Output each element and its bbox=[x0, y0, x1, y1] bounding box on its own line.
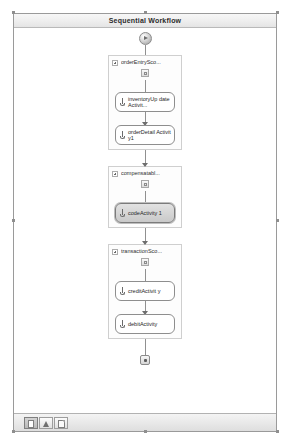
scope-header[interactable]: compensatabl... bbox=[109, 169, 181, 178]
page-title: Sequential Workflow bbox=[109, 17, 182, 24]
resize-grip-bottom-center[interactable] bbox=[144, 430, 147, 433]
scope-header[interactable]: orderEntrySco... bbox=[109, 58, 181, 67]
connector-scope3-to-end bbox=[145, 339, 146, 355]
page-icon bbox=[28, 420, 34, 428]
connector-badge-to-activity bbox=[145, 269, 146, 281]
scope-transaction[interactable]: transactionSco... creditActivit y debitA… bbox=[108, 244, 182, 339]
activity-debit[interactable]: debitActivity bbox=[115, 314, 175, 334]
resize-grip-top-center[interactable] bbox=[144, 11, 147, 14]
workflow-flow-column: orderEntrySco... inventoryUp dateActivit… bbox=[14, 32, 276, 365]
scope-body: creditActivit y debitActivity bbox=[115, 269, 175, 338]
expand-plus-icon[interactable] bbox=[112, 171, 118, 177]
workflow-canvas[interactable]: orderEntrySco... inventoryUp dateActivit… bbox=[14, 28, 276, 413]
start-node-icon[interactable] bbox=[139, 32, 152, 45]
resize-grip-left-middle[interactable] bbox=[12, 219, 15, 222]
scope-label: transactionSco... bbox=[121, 249, 162, 255]
activity-label: creditActivit y bbox=[128, 288, 172, 295]
designer-toolbar bbox=[14, 413, 276, 431]
workflow-designer-window: Sequential Workflow orderEntrySco... inv… bbox=[13, 13, 277, 432]
scope-header[interactable]: transactionSco... bbox=[109, 247, 181, 256]
scope-icon bbox=[141, 258, 149, 266]
activity-label: orderDetail Activity1 bbox=[128, 129, 172, 142]
activity-label: debitActivity bbox=[128, 321, 172, 328]
connector-credit-to-debit bbox=[145, 301, 146, 314]
connector-badge-to-activity bbox=[145, 191, 146, 203]
activity-glyph-icon bbox=[119, 287, 126, 296]
resize-grip-top-right[interactable] bbox=[276, 11, 279, 14]
activity-glyph-icon bbox=[119, 98, 126, 107]
scope-icon bbox=[141, 69, 149, 77]
connector-badge-to-activity bbox=[145, 80, 146, 92]
view-designer-button[interactable] bbox=[24, 417, 38, 429]
scope-body: codeActivity 1 bbox=[115, 191, 175, 227]
activity-label: inventoryUp dateActivit... bbox=[128, 96, 172, 109]
activity-code-activity[interactable]: codeActivity 1 bbox=[115, 203, 175, 223]
scope-label: orderEntrySco... bbox=[121, 60, 161, 66]
expand-plus-icon[interactable] bbox=[112, 60, 118, 66]
resize-grip-bottom-right[interactable] bbox=[276, 430, 279, 433]
activity-glyph-icon bbox=[119, 131, 126, 140]
scope-body: inventoryUp dateActivit... orderDetail A… bbox=[115, 80, 175, 149]
end-node-icon[interactable] bbox=[140, 355, 150, 365]
expand-plus-icon[interactable] bbox=[112, 249, 118, 255]
connector-inventory-to-orderdetail bbox=[145, 112, 146, 125]
resize-grip-top-left[interactable] bbox=[12, 11, 15, 14]
connector-scope1-to-scope2 bbox=[145, 150, 146, 166]
connector-scope2-to-scope3 bbox=[145, 228, 146, 244]
scope-icon bbox=[141, 180, 149, 188]
resize-grip-bottom-left[interactable] bbox=[12, 430, 15, 433]
triangle-icon bbox=[43, 421, 49, 427]
view-code-button[interactable] bbox=[54, 417, 68, 429]
scope-label: compensatabl... bbox=[121, 171, 160, 177]
workflow-title-bar: Sequential Workflow bbox=[14, 14, 276, 28]
activity-glyph-icon bbox=[119, 320, 126, 329]
connector-start-to-scope1 bbox=[145, 45, 146, 55]
activity-credit[interactable]: creditActivit y bbox=[115, 281, 175, 301]
scope-compensatable[interactable]: compensatabl... codeActivity 1 bbox=[108, 166, 182, 228]
activity-inventory-update[interactable]: inventoryUp dateActivit... bbox=[115, 92, 175, 112]
sheet-icon bbox=[58, 420, 65, 428]
activity-glyph-icon bbox=[119, 209, 126, 218]
validate-button[interactable] bbox=[39, 417, 53, 429]
resize-grip-right-middle[interactable] bbox=[276, 219, 279, 222]
scope-order-entry[interactable]: orderEntrySco... inventoryUp dateActivit… bbox=[108, 55, 182, 150]
activity-order-detail[interactable]: orderDetail Activity1 bbox=[115, 125, 175, 145]
activity-label: codeActivity 1 bbox=[128, 210, 172, 217]
